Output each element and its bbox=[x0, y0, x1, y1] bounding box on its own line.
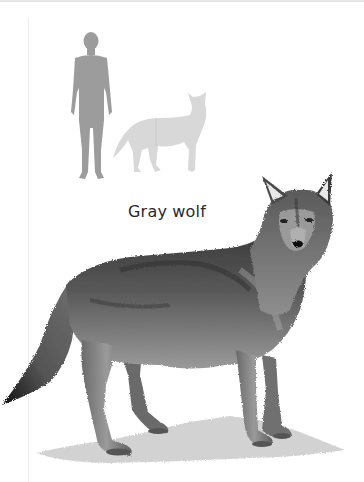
wolf-far-foreleg bbox=[262, 355, 292, 438]
wolf-nose bbox=[293, 241, 303, 248]
wolf-left-eye bbox=[280, 219, 288, 223]
illustration-page: Gray wolf bbox=[0, 0, 364, 482]
human-silhouette-icon bbox=[71, 32, 112, 179]
ground-shadow bbox=[36, 416, 345, 463]
wolf-tail bbox=[2, 280, 78, 405]
gray-wolf-illustration bbox=[0, 160, 364, 482]
wolf-head bbox=[250, 172, 333, 315]
wolf-right-eye bbox=[305, 218, 313, 222]
